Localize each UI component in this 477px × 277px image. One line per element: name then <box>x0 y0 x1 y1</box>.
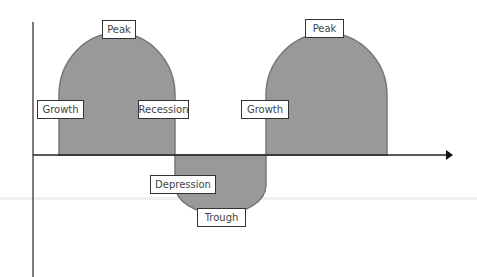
expansion-hump-2 <box>266 33 387 155</box>
x-axis-arrow-icon <box>446 150 453 160</box>
label-growth-2: Growth <box>241 100 289 119</box>
label-growth-1: Growth <box>37 100 84 119</box>
label-recession: Recession <box>138 100 189 119</box>
label-depression: Depression <box>150 175 216 194</box>
business-cycle-diagram <box>0 0 477 277</box>
label-peak-1: Peak <box>102 20 136 39</box>
expansion-hump-1 <box>59 33 175 155</box>
label-peak-2: Peak <box>305 19 344 38</box>
label-trough: Trough <box>197 208 246 227</box>
